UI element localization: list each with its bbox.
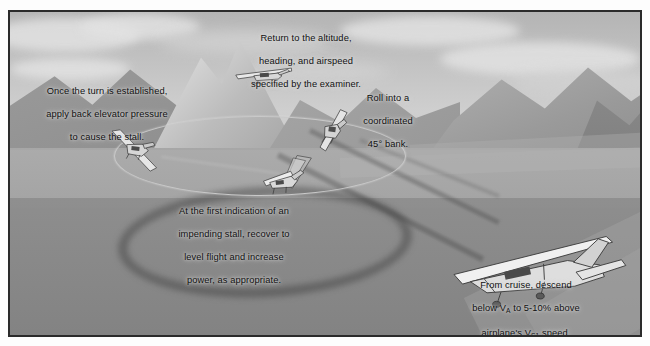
caption-text: airplane's V (482, 328, 532, 337)
caption-line: From cruise, descend (438, 280, 614, 292)
image-frame: Once the turn is established, apply back… (8, 10, 642, 337)
caption-line-vs1: airplane's VS1 speed. (438, 328, 614, 337)
illustration-scene: Once the turn is established, apply back… (0, 0, 650, 346)
caption-line: impending stall, recover to (138, 229, 330, 241)
caption-line: Roll into a (340, 93, 436, 105)
caption-line: Return to the altitude, (218, 33, 394, 45)
caption-line: level flight and increase (138, 252, 330, 264)
caption-establish-turn: Once the turn is established, apply back… (18, 74, 196, 155)
caption-line: At the first indication of an (138, 206, 330, 218)
caption-line: Once the turn is established, (18, 86, 196, 98)
caption-line: power, as appropriate. (138, 275, 330, 287)
caption-roll-into-bank: Roll into a coordinated 45° bank. (340, 81, 436, 162)
caption-text: to 5-10% above (511, 303, 580, 313)
caption-line: 45° bank. (340, 139, 436, 151)
caption-text: below V (472, 303, 506, 313)
caption-recover-stall: At the first indication of an impending … (138, 194, 330, 298)
caption-text: speed. (539, 328, 570, 337)
caption-line-va: below VA to 5-10% above (438, 303, 614, 317)
caption-descend-from-cruise: From cruise, descend below VA to 5-10% a… (438, 268, 614, 337)
caption-line: apply back elevator pressure (18, 109, 196, 121)
caption-line: coordinated (340, 116, 436, 128)
caption-line: to cause the stall. (18, 132, 196, 144)
caption-line: heading, and airspeed (218, 56, 394, 68)
